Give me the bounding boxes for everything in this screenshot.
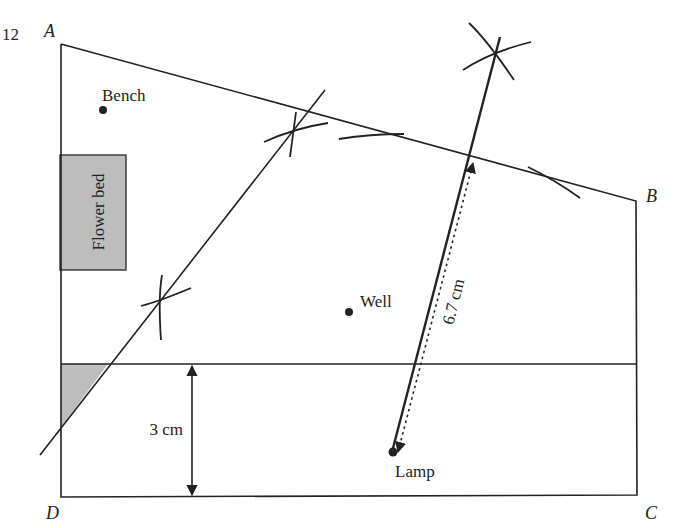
well-label: Well	[360, 292, 392, 311]
lamp-label: Lamp	[395, 462, 435, 481]
bench-label: Bench	[102, 86, 146, 105]
arc-mark	[528, 167, 580, 198]
distance-6-7cm-label: 6.7 cm	[439, 277, 469, 327]
vertex-c-label: C	[645, 503, 658, 523]
arc-mark	[160, 275, 162, 340]
vertex-d-label: D	[45, 503, 59, 523]
perpendicular-line	[392, 37, 500, 452]
arc-mark	[141, 288, 191, 306]
question-number: 12	[2, 25, 19, 44]
vertex-a-label: A	[43, 21, 56, 41]
arc-mark	[339, 134, 404, 139]
diagram-canvas: Flower bed 6.7 cm 3 cm Bench Well Lamp 1…	[0, 0, 677, 528]
lamp-point	[389, 448, 398, 457]
shaded-region	[61, 364, 108, 427]
flower-bed: Flower bed	[60, 155, 126, 270]
field-outline	[61, 44, 637, 497]
vertex-b-label: B	[646, 186, 657, 206]
bench-point	[99, 106, 107, 114]
flower-bed-label: Flower bed	[89, 173, 108, 250]
distance-3cm-label: 3 cm	[149, 420, 183, 439]
well-point	[345, 308, 353, 316]
bisector-line	[40, 90, 325, 455]
